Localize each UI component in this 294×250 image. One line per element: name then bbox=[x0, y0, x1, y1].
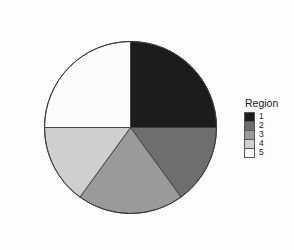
legend-swatch-2 bbox=[244, 121, 255, 130]
legend-item-2[interactable]: 2 bbox=[244, 121, 292, 130]
legend-item-1[interactable]: 1 bbox=[244, 112, 292, 121]
legend-title: Region bbox=[245, 97, 292, 110]
legend-label-5: 5 bbox=[259, 148, 264, 157]
pie-slice-5[interactable] bbox=[45, 42, 131, 128]
pie-chart-plot-area bbox=[44, 41, 217, 214]
legend-item-list: 12345 bbox=[244, 112, 292, 157]
legend-swatch-3 bbox=[244, 130, 255, 139]
pie-chart-svg bbox=[44, 41, 217, 214]
legend: Region 12345 bbox=[244, 97, 292, 157]
legend-item-3[interactable]: 3 bbox=[244, 130, 292, 139]
legend-swatch-1 bbox=[244, 112, 255, 121]
pie-slice-1[interactable] bbox=[131, 42, 217, 128]
legend-item-5[interactable]: 5 bbox=[244, 148, 292, 157]
legend-swatch-5 bbox=[244, 148, 255, 158]
pie-chart-figure: Region 12345 bbox=[0, 0, 294, 250]
pie-slice-group bbox=[45, 42, 217, 214]
